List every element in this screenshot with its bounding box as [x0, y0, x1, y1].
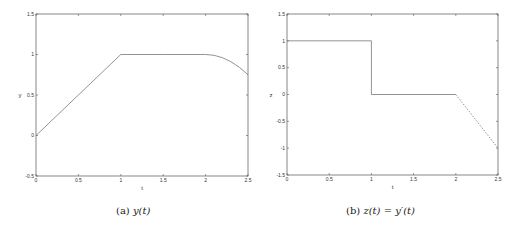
caption-b-expr: z(t) = y′(t): [363, 205, 415, 216]
y-tick-label: 1: [282, 38, 285, 44]
y-axis-label: y: [19, 92, 22, 98]
y-tick-label: -0.5: [276, 118, 285, 124]
y-tick-label: 0.5: [27, 92, 34, 98]
x-axis-label: t: [141, 185, 143, 191]
plot-a: 00.511.522.5-0.500.511.5ty: [19, 11, 252, 191]
data-line: [36, 55, 248, 136]
y-tick-label: -1: [281, 145, 286, 151]
y-axis-label: z: [270, 92, 273, 98]
x-tick-label: 2.5: [245, 177, 252, 183]
caption-a-expr: y(t): [133, 205, 150, 216]
x-tick-label: 0.5: [75, 177, 82, 183]
x-tick-label: 1: [119, 177, 122, 183]
caption-a-label: (a): [116, 205, 130, 216]
x-tick-label: 1.5: [410, 176, 417, 182]
y-tick-label: -1.5: [276, 172, 285, 178]
x-tick-label: 2: [454, 176, 457, 182]
y-tick-label: 0.5: [278, 64, 285, 70]
x-tick-label: 1.5: [160, 177, 167, 183]
caption-a: (a) y(t): [116, 205, 150, 216]
axes-box: [36, 14, 248, 176]
x-tick-label: 0: [286, 176, 289, 182]
y-tick-label: 1.5: [27, 11, 34, 17]
x-tick-label: 0.5: [326, 176, 333, 182]
x-tick-label: 2: [204, 177, 207, 183]
plot-b: 00.511.522.5-1.5-1-0.500.511.5tz: [270, 11, 502, 190]
x-tick-label: 0: [35, 177, 38, 183]
y-tick-label: 0: [31, 132, 34, 138]
y-tick-label: -0.5: [25, 173, 34, 179]
data-line: [287, 41, 456, 95]
y-tick-label: 0: [282, 91, 285, 97]
x-tick-label: 2.5: [495, 176, 502, 182]
caption-b-label: (b): [346, 205, 360, 216]
x-tick-label: 1: [370, 176, 373, 182]
y-tick-label: 1: [31, 51, 34, 57]
data-line: [456, 95, 498, 149]
figure-canvas: 00.511.522.5-0.500.511.5ty00.511.522.5-1…: [0, 0, 521, 200]
x-axis-label: t: [392, 184, 394, 190]
y-tick-label: 1.5: [278, 11, 285, 17]
caption-b: (b) z(t) = y′(t): [346, 205, 415, 216]
